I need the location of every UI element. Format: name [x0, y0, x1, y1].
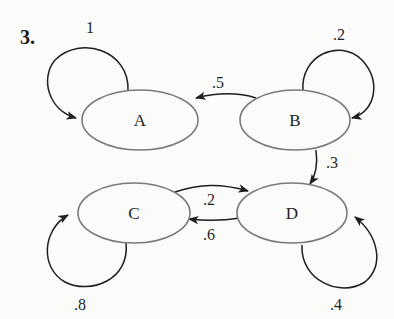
arrow-d-c [189, 218, 240, 220]
markov-chain-diagram: 3. 1 .2 .5 .3 .2 [0, 0, 394, 319]
node-c: C [78, 183, 190, 243]
edge-label-c-c: .8 [74, 296, 86, 313]
node-a: A [82, 90, 198, 150]
node-b-label: B [289, 111, 300, 130]
node-a-label: A [134, 111, 147, 130]
problem-number: 3. [20, 26, 35, 49]
node-b: B [240, 90, 350, 150]
edge-label-a-a: 1 [86, 19, 94, 36]
node-c-label: C [128, 204, 139, 223]
edge-label-b-a: .5 [212, 74, 224, 91]
node-d-label: D [286, 204, 298, 223]
edge-b-to-a: .5 [196, 74, 256, 98]
edge-label-b-d: .3 [326, 154, 338, 171]
diagram-canvas: 1 .2 .5 .3 .2 .6 .8 [0, 0, 394, 319]
edge-label-d-c: .6 [203, 226, 215, 243]
node-d: D [237, 183, 347, 243]
arrow-b-d [310, 150, 317, 184]
edge-label-b-b: .2 [333, 26, 345, 43]
arrow-b-a [196, 94, 256, 98]
edge-d-to-c: .6 [189, 218, 240, 243]
edge-label-d-d: .4 [330, 296, 342, 313]
edge-b-to-d: .3 [310, 150, 338, 184]
edge-label-c-d: .2 [203, 191, 215, 208]
